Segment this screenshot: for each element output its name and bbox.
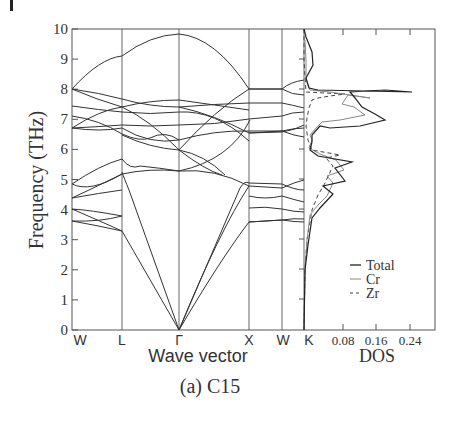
y-tick-3: 3 <box>61 232 69 248</box>
x-axis-label: Wave vector <box>148 346 247 366</box>
x-tick-l: L <box>118 332 126 348</box>
y-tick-labels: 012345678910 <box>53 21 69 338</box>
y-tick-10: 10 <box>53 21 68 37</box>
y-tick-7: 7 <box>61 111 69 127</box>
y-tick-2: 2 <box>61 262 69 278</box>
plot-frame <box>72 29 435 330</box>
y-tick-1: 1 <box>61 292 69 308</box>
figure-caption: (a) C15 <box>180 375 241 398</box>
legend-cr-label: Cr <box>366 272 380 287</box>
y-tick-4: 4 <box>61 202 69 218</box>
legend-zr-label: Zr <box>366 286 380 301</box>
x-tick-w2: W <box>276 332 290 348</box>
phonon-bands <box>72 34 304 330</box>
y-axis-label: Frequency (THz) <box>25 111 48 249</box>
x-tick-k: K <box>304 332 314 348</box>
y-tick-6: 6 <box>61 141 69 157</box>
dos-ticks <box>299 29 410 330</box>
dos-tick-024: 0.24 <box>399 333 422 348</box>
y-ticks <box>72 29 78 330</box>
dos-curves <box>304 29 412 330</box>
y-tick-5: 5 <box>61 172 69 188</box>
legend-total-label: Total <box>366 258 395 273</box>
y-tick-9: 9 <box>61 51 69 67</box>
symmetry-lines <box>122 29 304 330</box>
x-tick-w1: W <box>73 332 87 348</box>
dos-axis-label: DOS <box>359 346 395 366</box>
legend: Total Cr Zr <box>350 258 395 301</box>
y-tick-8: 8 <box>61 81 69 97</box>
figure: 012345678910 <box>0 0 458 424</box>
dos-tick-008: 0.08 <box>332 333 355 348</box>
y-tick-0: 0 <box>61 322 69 338</box>
